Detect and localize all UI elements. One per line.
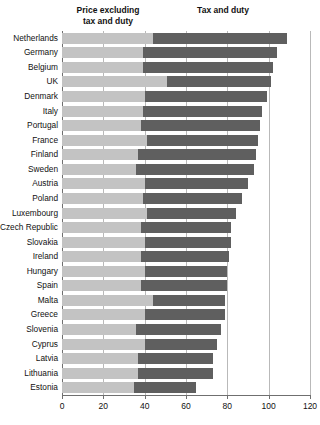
bar-segment-price (62, 382, 134, 393)
bar-segment-tax (138, 368, 212, 379)
bar-segment-price (62, 76, 167, 87)
category-label: Austria (32, 178, 58, 189)
category-label: Poland (32, 193, 58, 204)
bar-segment-tax (145, 266, 228, 277)
bar-segment-tax (143, 62, 273, 73)
stacked-bar-chart: Price excluding tax and duty Tax and dut… (0, 0, 320, 425)
x-tick-mark-0 (62, 395, 63, 399)
bar-segment-price (62, 62, 143, 73)
category-label: France (32, 135, 58, 146)
bar-segment-price (62, 237, 145, 248)
category-label: Czech Republic (0, 222, 58, 233)
bar-segment-price (62, 280, 141, 291)
bar-row: Lithuania (62, 368, 310, 379)
category-label: Slovakia (27, 237, 58, 248)
bar-segment-price (62, 164, 136, 175)
bar-segment-price (62, 324, 136, 335)
bar-segment-price (62, 135, 147, 146)
bar-row: Spain (62, 280, 310, 291)
bar-segment-tax (143, 47, 277, 58)
plot-area: NetherlandsGermanyBelgiumUKDenmarkItalyP… (62, 31, 310, 395)
x-tick-label: 60 (171, 401, 201, 411)
bar-row: Greece (62, 309, 310, 320)
bar-row: Belgium (62, 62, 310, 73)
x-tick-label: 80 (212, 401, 242, 411)
x-tick-mark-120 (310, 395, 311, 399)
x-tick-mark-100 (269, 395, 270, 399)
bar-row: Czech Republic (62, 222, 310, 233)
x-tick-mark-80 (227, 395, 228, 399)
bar-segment-tax (153, 33, 287, 44)
legend-header-price-line1: Price excluding (48, 5, 168, 16)
category-label: Latvia (36, 353, 58, 364)
bar-segment-tax (147, 208, 236, 219)
bar-segment-price (62, 309, 145, 320)
category-label: Netherlands (13, 33, 58, 44)
bar-segment-tax (141, 120, 261, 131)
category-label: Spain (37, 280, 58, 291)
legend-header-price-line2: tax and duty (48, 16, 168, 27)
bar-segment-price (62, 266, 145, 277)
bar-segment-tax (145, 178, 248, 189)
bar-segment-tax (167, 76, 270, 87)
bar-segment-price (62, 353, 138, 364)
category-label: Lithuania (24, 368, 58, 379)
bar-row: Hungary (62, 266, 310, 277)
category-label: Ireland (33, 251, 58, 262)
category-label: Sweden (28, 164, 58, 175)
bar-segment-tax (141, 280, 228, 291)
bar-row: France (62, 135, 310, 146)
category-label: Cyprus (32, 339, 58, 350)
bar-segment-tax (138, 353, 212, 364)
bar-segment-tax (145, 309, 226, 320)
category-label: Greece (31, 309, 58, 320)
x-tick-label: 20 (88, 401, 118, 411)
category-label: Malta (38, 295, 58, 306)
bar-segment-tax (136, 164, 254, 175)
bar-segment-tax (141, 222, 232, 233)
bar-segment-price (62, 33, 153, 44)
category-label: Italy (43, 106, 58, 117)
bar-row: Slovakia (62, 237, 310, 248)
bar-row: Denmark (62, 91, 310, 102)
category-label: UK (46, 76, 58, 87)
bar-segment-tax (147, 135, 259, 146)
bar-segment-tax (141, 251, 230, 262)
bar-row: Malta (62, 295, 310, 306)
bar-segment-price (62, 178, 145, 189)
legend-header-price: Price excluding tax and duty (48, 5, 168, 27)
category-label: Hungary (27, 266, 58, 277)
x-tick-mark-60 (186, 395, 187, 399)
bar-segment-tax (153, 295, 225, 306)
bar-segment-tax (145, 339, 217, 350)
x-tick-label: 40 (130, 401, 160, 411)
bar-row: Austria (62, 178, 310, 189)
category-label: Luxembourg (12, 208, 58, 219)
bar-segment-tax (145, 91, 267, 102)
x-tick-label: 100 (254, 401, 284, 411)
bar-row: Poland (62, 193, 310, 204)
bar-segment-price (62, 208, 147, 219)
bar-row: Netherlands (62, 33, 310, 44)
bar-segment-price (62, 295, 153, 306)
bar-segment-price (62, 91, 145, 102)
bar-row: Finland (62, 149, 310, 160)
x-tick-mark-20 (103, 395, 104, 399)
category-label: Denmark (24, 91, 58, 102)
bar-segment-price (62, 120, 141, 131)
legend-header-tax: Tax and duty (168, 5, 278, 16)
bar-segment-price (62, 339, 145, 350)
bar-segment-tax (134, 382, 196, 393)
bar-row: UK (62, 76, 310, 87)
bar-row: Latvia (62, 353, 310, 364)
bar-row: Cyprus (62, 339, 310, 350)
category-label: Portugal (27, 120, 58, 131)
x-tick-label: 120 (295, 401, 320, 411)
category-label: Estonia (30, 382, 58, 393)
category-label: Finland (31, 149, 58, 160)
bar-row: Ireland (62, 251, 310, 262)
category-label: Slovenia (26, 324, 58, 335)
bar-row: Portugal (62, 120, 310, 131)
bar-segment-tax (143, 193, 242, 204)
category-label: Germany (24, 47, 58, 58)
